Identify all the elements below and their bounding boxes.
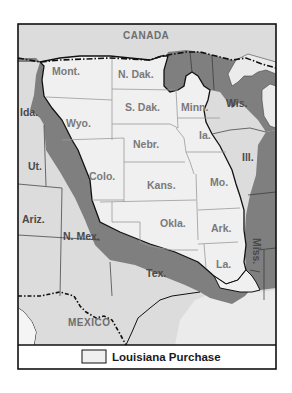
state-label-mo: Mo. — [210, 176, 228, 188]
state-label-kans: Kans. — [147, 179, 176, 191]
state-label-minn: Minn. — [181, 101, 208, 113]
state-label-wyo: Wyo. — [66, 117, 91, 129]
state-label-ariz: Ariz. — [22, 213, 45, 225]
state-label-ut: Ut. — [28, 160, 42, 172]
state-label-ida: Ida. — [20, 106, 38, 118]
state-label-ia: Ia. — [199, 129, 211, 141]
state-label-wis: Wis. — [226, 97, 248, 109]
state-label-la: La. — [216, 258, 231, 270]
state-label-mont: Mont. — [52, 65, 80, 77]
state-label-miss: Miss. — [251, 238, 263, 264]
mexico-label: MEXICO — [68, 317, 110, 328]
state-label-nebr: Nebr. — [133, 138, 159, 150]
louisiana-purchase-map: Louisiana Purchase CANADA MEXICO Mont. N… — [0, 0, 292, 393]
state-label-okla: Okla. — [160, 217, 186, 229]
state-label-nmex: N. Mex. — [63, 230, 100, 242]
state-label-ark: Ark. — [211, 222, 232, 234]
legend-label: Louisiana Purchase — [112, 351, 221, 363]
state-label-colo: Colo. — [89, 170, 115, 182]
state-label-ndak: N. Dak. — [118, 68, 154, 80]
state-label-ill: Ill. — [242, 151, 254, 163]
legend-swatch — [82, 350, 106, 363]
state-label-tex: Tex. — [146, 267, 166, 279]
canada-label: CANADA — [123, 30, 169, 41]
state-label-sdak: S. Dak. — [125, 101, 160, 113]
